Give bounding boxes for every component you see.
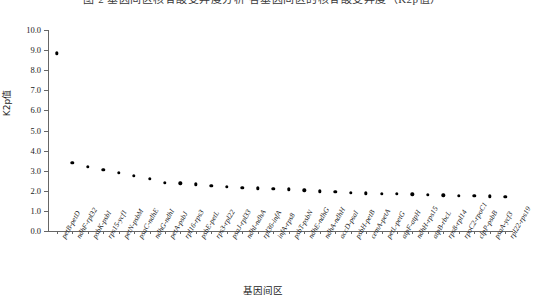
x-axis-tick [180,231,181,234]
data-point [302,189,305,192]
x-axis-title: 基因间区 [0,283,525,297]
data-point [457,194,460,197]
y-axis-tick-label: 6.0 [30,106,41,115]
y-axis-tick-label: 5.0 [30,126,41,135]
x-axis-tick [103,231,104,234]
x-axis-tick [242,231,243,234]
x-axis-tick [459,231,460,234]
figure-caption-text: 图 2 基因间区核苷酸变异度分析 各基因间区的核苷酸变异度（K2p值） [0,0,525,5]
y-axis-tick [44,151,49,152]
x-axis-tick [412,231,413,234]
y-axis-tick-label: 4.0 [30,146,41,155]
y-axis-tick [44,171,49,172]
data-point [504,195,507,198]
x-axis-tick [196,231,197,234]
data-point [101,168,104,171]
x-axis-tick [505,231,506,234]
x-axis-tick [165,231,166,234]
x-axis-tick [304,231,305,234]
data-point [86,165,89,168]
x-axis-tick [289,231,290,234]
data-point [442,194,445,197]
y-axis-tick [44,50,49,51]
data-point [132,174,135,177]
data-point [241,186,244,189]
data-point [70,161,73,164]
y-axis-tick-label: 1.0 [30,207,41,216]
data-point [318,189,321,192]
y-axis-title: K2p值 [0,90,13,116]
x-axis-tick [211,231,212,234]
y-axis-tick [44,131,49,132]
y-axis-tick-label: 8.0 [30,66,41,75]
y-axis-tick-label: 3.0 [30,166,41,175]
y-axis-tick [44,191,49,192]
x-axis-tick [72,231,73,234]
data-point [488,195,491,198]
plot-area: 0.01.02.03.04.05.06.07.08.09.010.0petB-p… [48,30,513,232]
data-point [55,51,58,54]
x-axis-tick [119,231,120,234]
data-point [163,181,166,184]
data-point [117,171,120,174]
x-axis-tick [366,231,367,234]
y-axis-tick [44,70,49,71]
x-axis-tick [227,231,228,234]
data-point [272,187,275,190]
data-point [225,185,228,188]
x-axis-tick [428,231,429,234]
x-axis-tick [258,231,259,234]
figure-caption-clipped: 图 2 基因间区核苷酸变异度分析 各基因间区的核苷酸变异度（K2p值） [0,0,525,11]
data-point [395,192,398,195]
data-point [194,183,197,186]
data-point [179,181,182,184]
x-axis-tick [351,231,352,234]
data-point [210,184,213,187]
x-axis-tick [320,231,321,234]
y-axis-tick [44,211,49,212]
data-point [256,187,259,190]
x-axis-tick [134,231,135,234]
y-axis-tick [44,30,49,31]
data-point [426,193,429,196]
x-axis-tick-label: rpl22-rps19 [508,205,532,239]
x-axis-tick [150,231,151,234]
x-axis-tick [57,231,58,234]
x-axis-tick [335,231,336,234]
y-axis-tick-label: 9.0 [30,46,41,55]
x-axis-tick [382,231,383,234]
x-axis-tick [397,231,398,234]
x-axis-tick [490,231,491,234]
x-axis-tick [88,231,89,234]
y-axis-tick [44,231,49,232]
y-axis-tick-label: 7.0 [30,86,41,95]
data-point [380,192,383,195]
data-point [364,192,367,195]
data-point [411,193,414,196]
data-point [473,194,476,197]
x-axis-tick [443,231,444,234]
y-axis-tick-label: 10.0 [26,26,41,35]
y-axis-tick [44,110,49,111]
y-axis-tick [44,90,49,91]
x-axis-tick [273,231,274,234]
data-point [287,187,290,190]
data-point [148,177,151,180]
y-axis-tick-label: 0.0 [30,227,41,236]
x-axis-tick [474,231,475,234]
y-axis-tick-label: 2.0 [30,187,41,196]
data-point [333,190,336,193]
data-point [349,191,352,194]
